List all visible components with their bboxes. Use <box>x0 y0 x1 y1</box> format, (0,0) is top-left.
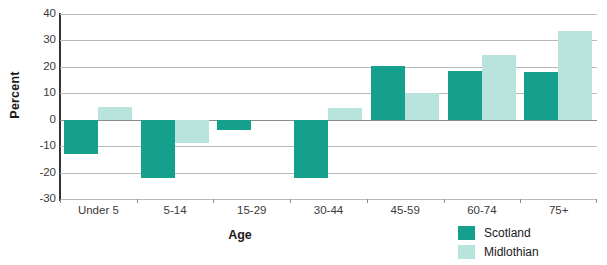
y-axis-tick-label: -10 <box>12 140 56 152</box>
legend-label: Scotland <box>484 226 531 240</box>
y-axis-tick-label: 30 <box>12 35 56 47</box>
x-axis-category-label: Under 5 <box>58 203 138 217</box>
bar-group <box>444 14 521 199</box>
plot-area <box>60 14 597 199</box>
cropped-title-sliver <box>0 0 607 3</box>
bar-midlothian-30-44[interactable] <box>328 108 362 120</box>
x-axis-category-label: 45-59 <box>365 203 445 217</box>
bar-scotland-60-74[interactable] <box>448 71 482 120</box>
bar-group <box>520 14 597 199</box>
bar-midlothian-under-5[interactable] <box>98 107 132 120</box>
y-axis-title: Percent <box>8 60 22 130</box>
bar-scotland-30-44[interactable] <box>294 120 328 178</box>
legend-swatch-icon <box>458 245 475 259</box>
bar-group <box>60 14 137 199</box>
y-axis-tick-label: -30 <box>12 193 56 205</box>
bar-group <box>137 14 214 199</box>
bar-scotland-5-14[interactable] <box>141 120 175 178</box>
bar-group <box>290 14 367 199</box>
legend-label: Midlothian <box>484 245 539 259</box>
bar-midlothian-60-74[interactable] <box>482 55 516 120</box>
chart-screenshot: 403020100-10-20-30 Percent Under 55-1415… <box>0 0 607 265</box>
chart-legend: ScotlandMidlothian <box>458 223 539 261</box>
x-axis-category-labels: Under 55-1415-2930-4445-5960-7475+ <box>60 203 597 219</box>
bar-scotland-under-5[interactable] <box>64 120 98 154</box>
x-axis-title: Age <box>150 228 330 242</box>
x-axis-category-label: 75+ <box>519 203 599 217</box>
legend-swatch-icon <box>458 226 475 240</box>
bar-group <box>213 14 290 199</box>
bar-scotland-75-[interactable] <box>524 72 558 120</box>
x-axis-category-label: 30-44 <box>289 203 369 217</box>
x-axis-category-label: 60-74 <box>442 203 522 217</box>
x-axis-category-label: 5-14 <box>135 203 215 217</box>
y-axis-tick-label: -20 <box>12 167 56 179</box>
x-axis-category-label: 15-29 <box>212 203 292 217</box>
bar-scotland-15-29[interactable] <box>217 120 251 131</box>
bar-scotland-45-59[interactable] <box>371 66 405 120</box>
bar-midlothian-5-14[interactable] <box>175 120 209 144</box>
y-axis-tick-label: 40 <box>12 8 56 20</box>
legend-item-scotland[interactable]: Scotland <box>458 223 539 242</box>
bar-midlothian-45-59[interactable] <box>405 93 439 119</box>
legend-item-midlothian[interactable]: Midlothian <box>458 242 539 261</box>
bar-group <box>367 14 444 199</box>
bar-midlothian-75-[interactable] <box>558 31 592 120</box>
